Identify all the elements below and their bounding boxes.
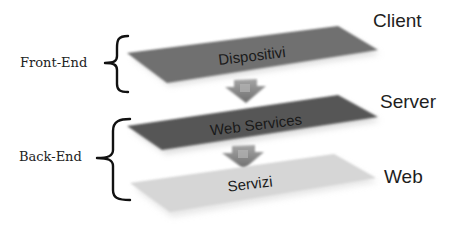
down-arrow-icon <box>225 79 266 103</box>
tier-label-web: Web <box>384 166 423 187</box>
back-end-label: Back-End <box>19 149 82 164</box>
tier-label-server: Server <box>380 91 437 112</box>
layer-servizi: Servizi <box>130 154 378 217</box>
layer-dispositivi: Dispositivi <box>127 26 380 86</box>
back-end-brace-icon <box>97 119 130 200</box>
tier-label-client: Client <box>373 10 422 31</box>
architecture-diagram: Front-End Back-End Dispositivi Web Servi… <box>0 0 460 229</box>
front-end-label: Front-End <box>20 55 87 70</box>
front-end-brace-icon <box>105 36 128 92</box>
